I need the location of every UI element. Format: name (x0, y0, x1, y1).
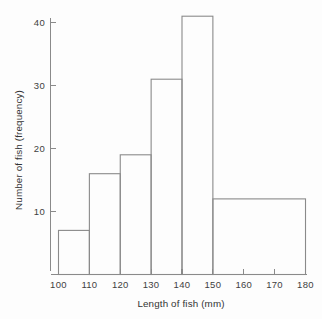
y-tick-label-10: 10 (34, 206, 45, 217)
x-tick-label-160: 160 (235, 279, 252, 290)
x-tick-label-140: 140 (174, 279, 191, 290)
histogram-bars (59, 16, 306, 274)
y-tick-label-30: 30 (34, 80, 45, 91)
x-tick-label-130: 130 (143, 279, 160, 290)
x-tick-label-120: 120 (112, 279, 129, 290)
x-axis-tick-labels: 100 110 120 130 140 150 160 170 180 (50, 279, 314, 290)
bar-bin-110-120 (89, 174, 120, 275)
x-tick-label-100: 100 (50, 279, 67, 290)
y-axis-title: Number of fish (frequency) (13, 90, 24, 210)
x-tick-label-110: 110 (81, 279, 97, 290)
y-axis-tick-labels: 40 30 20 10 (34, 17, 45, 217)
y-tick-label-20: 20 (34, 143, 45, 154)
bar-bin-130-140 (151, 79, 182, 274)
bar-bin-100-110 (59, 230, 90, 274)
x-tick-label-180: 180 (297, 279, 314, 290)
x-tick-label-150: 150 (205, 279, 222, 290)
chart-canvas: Number of fish (frequency) Length of fis… (0, 0, 322, 319)
bar-bin-140-150 (182, 16, 213, 274)
y-tick-label-40: 40 (34, 17, 45, 28)
bar-bin-120-130 (120, 155, 151, 275)
x-tick-label-170: 170 (266, 279, 283, 290)
bar-bin-150-180 (213, 199, 306, 275)
histogram-figure: Number of fish (frequency) Length of fis… (0, 0, 322, 319)
y-axis-ticks (51, 23, 57, 212)
x-axis-title: Length of fish (mm) (137, 298, 224, 309)
